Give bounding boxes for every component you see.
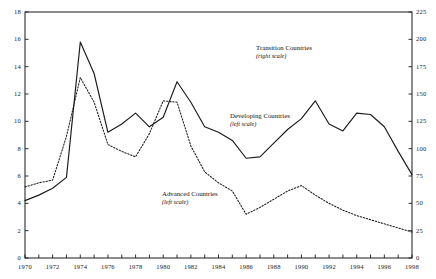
y-axis-left-tick-label: 8: [5, 145, 21, 152]
y-axis-right-tick-label: 225: [416, 8, 436, 15]
x-axis-tick-label: 1986: [231, 263, 261, 270]
x-axis-tick-label: 1976: [93, 263, 123, 270]
y-axis-right-tick-label: 150: [416, 90, 436, 97]
x-axis-tick-label: 1994: [342, 263, 372, 270]
chart-plot-svg: [0, 0, 436, 279]
y-axis-left-tick-label: 16: [5, 35, 21, 42]
y-axis-left-tick-label: 6: [5, 172, 21, 179]
y-axis-right-tick-label: 125: [416, 117, 436, 124]
y-axis-right-tick-label: 0: [416, 254, 436, 261]
y-axis-right-tick-label: 200: [416, 35, 436, 42]
y-axis-left-tick-label: 18: [5, 8, 21, 15]
x-axis-tick-label: 1980: [148, 263, 178, 270]
x-axis-tick-label: 1972: [38, 263, 68, 270]
x-axis-tick-label: 1988: [259, 263, 289, 270]
series-annotation: Transition Countries(right scale): [256, 44, 312, 60]
y-axis-left-tick-label: 4: [5, 199, 21, 206]
x-axis-tick-label: 1984: [204, 263, 234, 270]
series-line-developing-countries: [25, 42, 412, 201]
series-annotation: Developing Countries(left scale): [230, 112, 290, 128]
y-axis-right-tick-label: 50: [416, 199, 436, 206]
x-axis-tick-label: 1978: [121, 263, 151, 270]
x-axis-tick-label: 1970: [10, 263, 40, 270]
x-axis-tick-label: 1974: [65, 263, 95, 270]
series-annotation-title: Advanced Countries: [162, 190, 218, 197]
y-axis-right-tick-label: 75: [416, 172, 436, 179]
x-axis-tick-label: 1992: [314, 263, 344, 270]
series-annotation: Advanced Countries(left scale): [162, 190, 218, 206]
x-axis-tick-label: 1998: [397, 263, 427, 270]
y-axis-left-tick-label: 10: [5, 117, 21, 124]
y-axis-left-tick-label: 14: [5, 63, 21, 70]
y-axis-right-tick-label: 100: [416, 145, 436, 152]
x-axis-tick-label: 1982: [176, 263, 206, 270]
y-axis-left-tick-label: 2: [5, 227, 21, 234]
y-axis-right-tick-label: 175: [416, 63, 436, 70]
y-axis-left-tick-label: 12: [5, 90, 21, 97]
chart-container: 024681012141618 025507510012515017520022…: [0, 0, 436, 279]
y-axis-left-tick-label: 0: [5, 254, 21, 261]
series-line-advanced-countries: [25, 78, 412, 232]
x-axis-tick-label: 1996: [369, 263, 399, 270]
series-annotation-title: Developing Countries: [230, 112, 290, 119]
series-annotation-scale: (left scale): [162, 198, 218, 206]
x-axis-tick-label: 1990: [286, 263, 316, 270]
y-axis-right-tick-label: 25: [416, 227, 436, 234]
series-annotation-title: Transition Countries: [256, 44, 312, 51]
series-annotation-scale: (left scale): [230, 120, 290, 128]
series-annotation-scale: (right scale): [256, 52, 312, 60]
